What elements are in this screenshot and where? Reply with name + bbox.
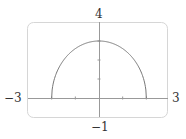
y-min-label: −1 xyxy=(91,121,109,133)
viewing-window-frame xyxy=(28,23,168,118)
x-min-label: −3 xyxy=(4,92,22,104)
x-max-label: 3 xyxy=(172,92,180,104)
chart-plot xyxy=(0,0,186,139)
y-max-label: 4 xyxy=(95,8,103,20)
